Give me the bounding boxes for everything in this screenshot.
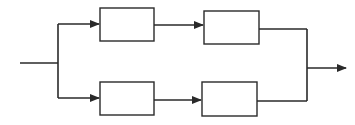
block-bottom-left-label bbox=[100, 82, 154, 115]
parallel-block-diagram bbox=[0, 0, 355, 125]
block-top-right-label bbox=[204, 11, 259, 44]
block-top-left-label bbox=[100, 8, 154, 41]
block-bottom-right-label bbox=[202, 82, 257, 116]
